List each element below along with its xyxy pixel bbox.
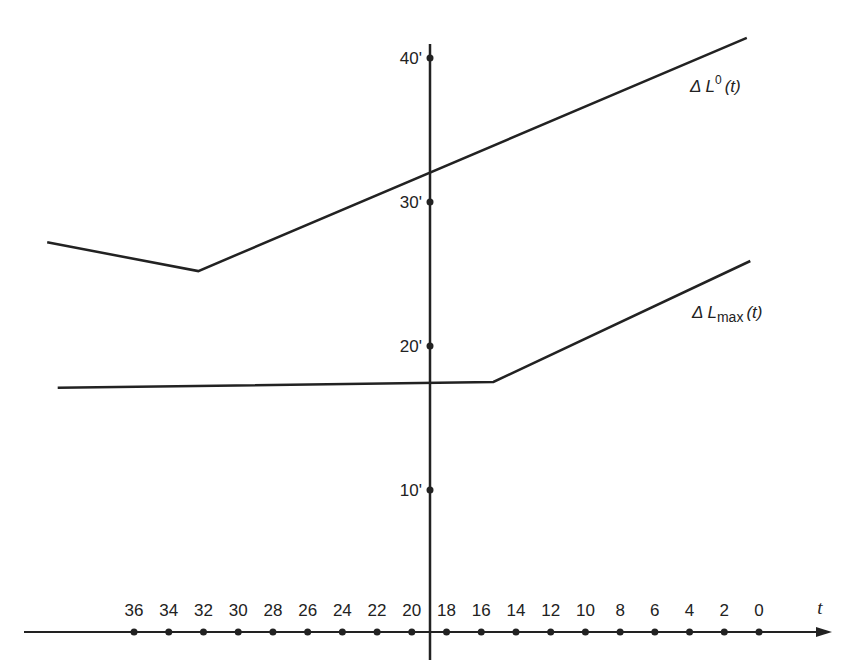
x-tick-label: 32 — [194, 601, 213, 620]
series-labels: Δ L0(t)Δ Lmax(t) — [689, 73, 762, 325]
y-tick-label: 40' — [400, 49, 422, 68]
x-tick-dot — [547, 629, 554, 636]
x-tick-dot — [617, 629, 624, 636]
y-tick-dot — [427, 487, 434, 494]
x-tick-label: 30 — [229, 601, 248, 620]
x-tick-dot — [374, 629, 381, 636]
series-line-delta-l0 — [47, 38, 747, 271]
x-tick-dot — [721, 629, 728, 636]
series-line-delta-lmax — [58, 261, 751, 388]
y-tick-dot — [427, 55, 434, 62]
y-axis: 10'20'30'40' — [400, 44, 434, 660]
x-tick-label: 26 — [298, 601, 317, 620]
x-tick-dot — [200, 629, 207, 636]
x-tick-dot — [339, 629, 346, 636]
x-tick-label: 18 — [437, 601, 456, 620]
label-delta-l0: Δ L0(t) — [689, 73, 741, 96]
y-tick-dot — [427, 343, 434, 350]
x-tick-label: 12 — [541, 601, 560, 620]
x-tick-dot — [269, 629, 276, 636]
x-tick-label: 2 — [720, 601, 729, 620]
x-tick-dot — [686, 629, 693, 636]
x-tick-label: 34 — [159, 601, 178, 620]
x-axis-arrow-icon — [816, 627, 832, 637]
x-tick-dot — [131, 629, 138, 636]
x-axis-title: t — [817, 597, 823, 618]
x-tick-label: 8 — [615, 601, 624, 620]
x-tick-dot — [582, 629, 589, 636]
x-tick-dot — [478, 629, 485, 636]
y-tick-label: 30' — [400, 193, 422, 212]
x-tick-dot — [165, 629, 172, 636]
chart-canvas: 363432302826242220181614121086420t 10'20… — [0, 0, 868, 668]
x-axis: 363432302826242220181614121086420t — [24, 597, 832, 637]
series-lines — [47, 38, 750, 388]
x-tick-dot — [512, 629, 519, 636]
x-tick-label: 36 — [125, 601, 144, 620]
x-tick-dot — [651, 629, 658, 636]
y-tick-dot — [427, 199, 434, 206]
x-tick-dot — [756, 629, 763, 636]
x-tick-label: 24 — [333, 601, 352, 620]
y-tick-label: 20' — [400, 337, 422, 356]
x-tick-label: 28 — [263, 601, 282, 620]
x-tick-dot — [443, 629, 450, 636]
x-tick-dot — [235, 629, 242, 636]
x-tick-label: 0 — [754, 601, 763, 620]
x-tick-label: 16 — [472, 601, 491, 620]
x-tick-dot — [304, 629, 311, 636]
x-tick-label: 14 — [506, 601, 525, 620]
x-tick-label: 6 — [650, 601, 659, 620]
y-tick-label: 10' — [400, 481, 422, 500]
x-tick-label: 20 — [402, 601, 421, 620]
x-tick-dot — [408, 629, 415, 636]
x-tick-label: 4 — [685, 601, 694, 620]
label-delta-lmax: Δ Lmax(t) — [691, 303, 762, 325]
x-tick-label: 22 — [368, 601, 387, 620]
x-tick-label: 10 — [576, 601, 595, 620]
